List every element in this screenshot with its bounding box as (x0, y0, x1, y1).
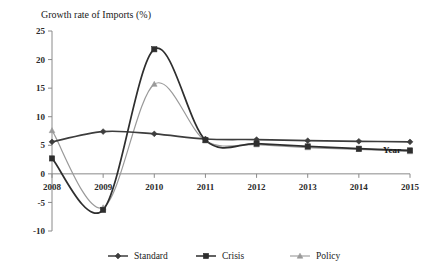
marker-square (203, 138, 208, 143)
marker-square (49, 156, 54, 161)
x-tick-label: 2010 (145, 182, 164, 192)
x-tick-label: 2015 (401, 182, 420, 192)
x-tick-label: 2011 (197, 182, 215, 192)
y-tick-label: -10 (33, 226, 45, 236)
y-tick-label: 5 (41, 140, 46, 150)
chart-container: 2520151050-5-10 200820092010201120122013… (0, 0, 429, 272)
marker-square (305, 144, 310, 149)
x-axis-title: Year (383, 145, 401, 155)
y-tick-label: 20 (36, 55, 46, 65)
y-tick-label: 25 (36, 26, 46, 36)
chart-background (0, 0, 429, 272)
x-tick-label: 2012 (248, 182, 267, 192)
y-tick-label: 15 (36, 83, 46, 93)
y-tick-label: 10 (36, 112, 46, 122)
marker-square (407, 148, 412, 153)
legend-label-crisis: Crisis (222, 251, 244, 261)
x-tick-label: 2013 (299, 182, 318, 192)
x-tick-label: 2009 (94, 182, 113, 192)
marker-square (254, 141, 259, 146)
marker-square (203, 253, 208, 258)
chart-title: Growth rate of Imports (%) (41, 9, 151, 21)
marker-square (152, 47, 157, 52)
x-tick-label: 2008 (43, 182, 62, 192)
line-chart-plot: 2520151050-5-10 200820092010201120122013… (0, 0, 429, 272)
y-tick-label: 0 (41, 169, 46, 179)
x-tick-label: 2014 (350, 182, 369, 192)
legend-label-standard: Standard (134, 251, 168, 261)
marker-square (101, 207, 106, 212)
y-tick-label: -5 (38, 198, 46, 208)
legend-label-policy: Policy (316, 251, 341, 261)
marker-square (356, 146, 361, 151)
